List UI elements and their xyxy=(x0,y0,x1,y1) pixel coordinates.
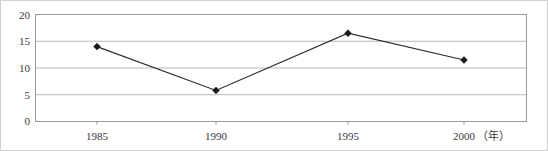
x-tick-label-2000: 2000 xyxy=(453,130,476,142)
chart-svg: 20 15 10 5 0 1985 1990 1995 2000 （年 xyxy=(1,1,548,151)
line-chart: 20 15 10 5 0 1985 1990 1995 2000 （年 xyxy=(1,1,548,151)
y-tick-label-0: 0 xyxy=(25,115,31,127)
chart-screenshot: 20 15 10 5 0 1985 1990 1995 2000 （年 xyxy=(0,0,548,151)
x-tick-label-1990: 1990 xyxy=(205,130,228,142)
x-tick-label-1985: 1985 xyxy=(86,130,109,142)
y-tick-label-20: 20 xyxy=(19,9,31,21)
y-tick-label-5: 5 xyxy=(25,89,31,101)
y-tick-label-15: 15 xyxy=(19,35,31,47)
x-axis-unit-annotation: （年） xyxy=(477,129,510,143)
y-axis-tick-labels: 20 15 10 5 0 xyxy=(19,9,31,128)
x-axis-tick-labels: 1985 1990 1995 2000 xyxy=(86,130,476,142)
x-tick-label-1995: 1995 xyxy=(337,130,360,142)
y-tick-label-10: 10 xyxy=(19,62,31,74)
